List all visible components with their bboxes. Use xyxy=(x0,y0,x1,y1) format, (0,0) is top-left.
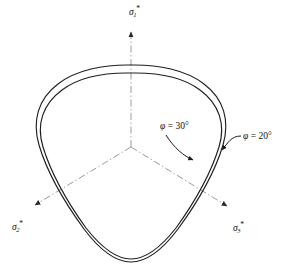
axis-sigma2-line xyxy=(35,147,131,205)
phi30-symbol: φ xyxy=(160,121,165,131)
sigma1-superscript: * xyxy=(136,4,140,13)
stress-axes-group xyxy=(35,32,227,206)
phi20-symbol: φ xyxy=(243,131,248,141)
phi30-value: 30° xyxy=(175,121,188,131)
sigma3-superscript: * xyxy=(240,220,244,229)
axis-label-sigma1: σ1* xyxy=(129,4,140,18)
sigma2-superscript: * xyxy=(19,219,23,228)
leader-phi30 xyxy=(166,135,193,160)
phi20-equals: = xyxy=(251,131,256,141)
axis-sigma3-line xyxy=(131,147,227,206)
yield-curve-phi20 xyxy=(36,65,226,262)
yield-locus-curves xyxy=(36,65,226,262)
axis-label-sigma2: σ2* xyxy=(12,219,23,233)
annotation-phi-30: φ = 30° xyxy=(160,121,189,131)
axis-label-sigma3: σ3* xyxy=(233,220,244,234)
leader-phi30-path xyxy=(166,135,193,160)
phi20-value: 20° xyxy=(258,131,271,141)
phi30-equals: = xyxy=(168,121,173,131)
annotation-phi-20: φ = 20° xyxy=(243,131,272,141)
